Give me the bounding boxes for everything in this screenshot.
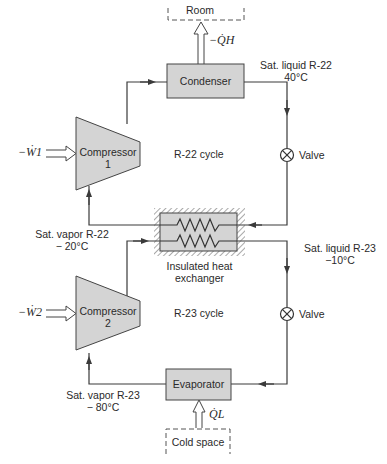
r22-cycle-label: R-22 cycle [174,148,224,160]
state-r23-hx-exit-line2: −10°C [294,254,386,266]
heat-in-arrow [193,400,205,428]
valve-2-label: Valve [299,308,325,320]
work-input-arrow-2 [46,306,76,321]
valve-2 [281,308,294,321]
compressor-1-label: Compressor 1 [76,146,140,170]
heat-out-label: −Q̇H [209,34,234,46]
compressor-2-label-line1: Compressor [76,305,140,317]
heat-in-label: Q̇L [209,408,224,420]
work-input-arrow-1 [46,146,76,161]
state-r22-compressor-inlet: Sat. vapor R-22 − 20°C [30,228,114,252]
state-r23-compressor-inlet: Sat. vapor R-23 − 80°C [58,389,148,413]
state-r23-hx-exit: Sat. liquid R-23 −10°C [294,242,386,266]
state-r22-compressor-inlet-line2: − 20°C [30,240,114,252]
state-r22-condenser-exit-line2: 40°C [250,71,342,83]
state-r22-compressor-inlet-line1: Sat. vapor R-22 [30,228,114,240]
evaporator-label: Evaporator [166,378,231,390]
hx-label-line2: exchanger [152,272,247,284]
valve-1-label: Valve [299,149,325,161]
room-label: Room [186,4,214,16]
work-label-2: −Ẇ2 [18,306,42,318]
r23-cycle-label: R-23 cycle [174,307,224,319]
compressor-2-label: Compressor 2 [76,305,140,329]
compressor-1-label-line1: Compressor [76,146,140,158]
compressor-1-label-line2: 1 [76,158,140,170]
heat-out-arrow [194,22,208,64]
heat-exchanger [154,208,245,256]
state-r23-compressor-inlet-line2: − 80°C [58,401,148,413]
state-r23-hx-exit-line1: Sat. liquid R-23 [294,242,386,254]
hx-label-line1: Insulated heat [152,260,247,272]
compressor-2-label-line2: 2 [76,317,140,329]
cold-space-label: Cold space [166,436,230,448]
work-label-1: −Ẇ1 [18,146,42,158]
condenser-label: Condenser [167,75,244,87]
state-r22-condenser-exit: Sat. liquid R-22 40°C [250,59,342,83]
hx-label: Insulated heat exchanger [152,260,247,284]
state-r22-condenser-exit-line1: Sat. liquid R-22 [250,59,342,71]
state-r23-compressor-inlet-line1: Sat. vapor R-23 [58,389,148,401]
valve-1 [281,149,294,162]
